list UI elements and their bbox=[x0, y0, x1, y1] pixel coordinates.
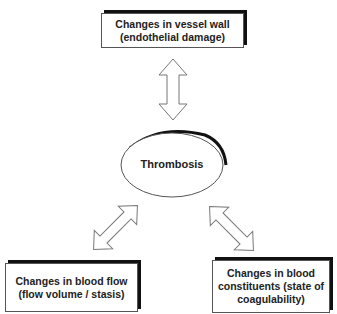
node-line: (endothelial damage) bbox=[115, 31, 229, 44]
node-blood-flow: Changes in blood flow (flow volume / sta… bbox=[5, 263, 138, 312]
node-vessel-wall: Changes in vessel wall (endothelial dama… bbox=[101, 13, 244, 48]
node-line: Changes in blood flow bbox=[16, 275, 128, 288]
node-blood-constituents: Changes in blood constituents (state of … bbox=[212, 260, 330, 313]
node-line: Changes in blood bbox=[218, 267, 324, 280]
node-line: (flow volume / stasis) bbox=[16, 288, 128, 301]
double-arrow-blood-constituents bbox=[200, 197, 262, 259]
double-arrow-blood-flow bbox=[84, 196, 146, 258]
node-line: constituents (state of bbox=[218, 280, 324, 293]
double-arrow-vessel-wall bbox=[159, 59, 187, 120]
center-label: Thrombosis bbox=[122, 158, 222, 170]
node-line: coagulability) bbox=[218, 293, 324, 306]
node-line: Changes in vessel wall bbox=[115, 18, 229, 31]
